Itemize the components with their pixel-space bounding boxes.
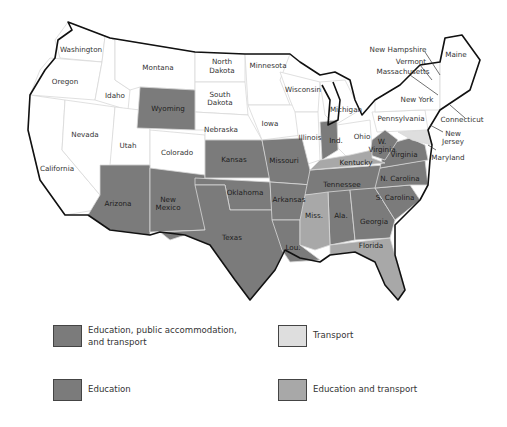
label-nebraska: Nebraska bbox=[204, 125, 238, 134]
label-mississippi: Miss. bbox=[305, 211, 323, 220]
legend-swatch bbox=[278, 325, 307, 347]
label-louisiana: Lou. bbox=[285, 243, 300, 252]
label-texas: Texas bbox=[221, 233, 242, 242]
label-iowa: Iowa bbox=[262, 119, 279, 128]
legend-item-education-and-transport: Education and transport bbox=[278, 379, 463, 401]
label-maryland: Maryland bbox=[431, 153, 464, 162]
legend-swatch bbox=[53, 379, 82, 401]
legend-swatch bbox=[278, 379, 307, 401]
state-washington bbox=[55, 22, 105, 62]
label-missouri: Missouri bbox=[269, 156, 299, 165]
label-montana: Montana bbox=[142, 63, 173, 72]
leader-new-jersey bbox=[430, 125, 443, 132]
map-legend: Education, public accommodation, and tra… bbox=[0, 318, 507, 427]
label-florida: Florida bbox=[359, 241, 383, 250]
label-massachusetts: Massachusetts bbox=[376, 67, 429, 76]
label-west-virginia-2: Virginia bbox=[368, 145, 395, 154]
label-indiana: Ind. bbox=[329, 136, 343, 145]
label-south-dakota-2: Dakota bbox=[207, 98, 232, 107]
state-new-england bbox=[440, 35, 480, 110]
legend-item-education: Education bbox=[53, 379, 238, 401]
label-oklahoma: Oklahoma bbox=[227, 188, 264, 197]
legend-label: Transport bbox=[313, 330, 463, 342]
label-wyoming: Wyoming bbox=[151, 104, 185, 113]
label-north-dakota-2: Dakota bbox=[209, 66, 234, 75]
label-georgia: Georgia bbox=[360, 217, 388, 226]
label-idaho: Idaho bbox=[105, 91, 125, 100]
label-utah: Utah bbox=[119, 141, 136, 150]
us-map: Washington Oregon California Nevada Idah… bbox=[0, 0, 507, 310]
label-michigan: Michigan bbox=[330, 105, 362, 114]
label-washington: Washington bbox=[60, 45, 102, 54]
label-south-carolina: S. Carolina bbox=[376, 193, 415, 202]
label-wisconsin: Wisconsin bbox=[285, 85, 321, 94]
label-maine: Maine bbox=[445, 50, 467, 59]
legend-item-education-accommodation-transport: Education, public accommodation, and tra… bbox=[53, 325, 238, 348]
label-kansas: Kansas bbox=[221, 155, 247, 164]
label-kentucky: Kentucky bbox=[340, 158, 374, 167]
label-north-carolina: N. Carolina bbox=[380, 174, 420, 183]
label-new-jersey-2: Jersey bbox=[441, 137, 465, 146]
label-nevada: Nevada bbox=[71, 130, 98, 139]
label-colorado: Colorado bbox=[161, 148, 193, 157]
legend-label: Education, public accommodation, and tra… bbox=[88, 325, 238, 348]
label-illinois: Illinois bbox=[299, 133, 322, 142]
label-new-mexico-2: Mexico bbox=[155, 203, 180, 212]
label-alabama: Ala. bbox=[334, 211, 348, 220]
label-pennsylvania: Pennsylvania bbox=[377, 114, 424, 123]
legend-label: Education bbox=[88, 384, 238, 396]
label-arkansas: Arkansas bbox=[273, 195, 306, 204]
label-connecticut: Connecticut bbox=[440, 115, 483, 124]
label-arizona: Arizona bbox=[105, 199, 132, 208]
label-north-dakota-1: North bbox=[212, 57, 232, 66]
label-vermont: Vermont bbox=[396, 57, 427, 66]
label-oregon: Oregon bbox=[52, 77, 78, 86]
label-minnesota: Minnesota bbox=[249, 61, 286, 70]
label-california: California bbox=[40, 164, 74, 173]
label-new-york: New York bbox=[401, 95, 435, 104]
label-new-hampshire: New Hampshire bbox=[370, 45, 427, 54]
legend-swatch bbox=[53, 325, 82, 347]
label-tennessee: Tennessee bbox=[322, 180, 361, 189]
label-ohio: Ohio bbox=[354, 132, 371, 141]
legend-item-transport: Transport bbox=[278, 325, 463, 347]
legend-label: Education and transport bbox=[313, 384, 463, 396]
state-new-mexico bbox=[150, 168, 205, 232]
